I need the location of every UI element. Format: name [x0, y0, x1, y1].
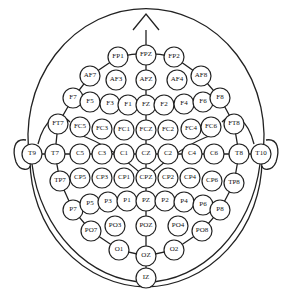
electrode-ft8: FT8 — [224, 114, 244, 134]
electrode-cpz: CPZ — [136, 168, 156, 188]
electrode-fp2: FP2 — [164, 47, 184, 67]
electrode-label: OZ — [141, 251, 150, 259]
electrode-fc6: FC6 — [201, 117, 221, 137]
electrode-label: F7 — [69, 93, 77, 101]
electrode-t9: T9 — [22, 144, 42, 164]
electrode-label: FC4 — [185, 124, 198, 132]
electrode-label: T10 — [255, 149, 267, 157]
electrode-afz: AFZ — [136, 70, 156, 90]
electrode-fcz: FCZ — [136, 120, 156, 140]
electrode-label: P8 — [216, 205, 224, 213]
electrode-fc5: FC5 — [70, 117, 90, 137]
electrode-fc1: FC1 — [114, 120, 134, 140]
electrode-cz: CZ — [136, 144, 156, 164]
electrode-f8: F8 — [210, 88, 230, 108]
electrode-label: PO4 — [172, 221, 185, 229]
electrode-po4: PO4 — [168, 216, 188, 236]
electrode-f1: F1 — [118, 95, 138, 115]
electrode-label: F1 — [124, 100, 132, 108]
electrode-label: T7 — [51, 149, 59, 157]
electrode-label: AFZ — [139, 75, 152, 83]
electrode-c5: C5 — [70, 144, 90, 164]
electrode-label: CZ — [142, 149, 151, 157]
electrode-label: P2 — [161, 196, 169, 204]
electrode-f5: F5 — [80, 92, 100, 112]
electrode-label: FC3 — [96, 124, 109, 132]
electrode-label: F4 — [180, 99, 188, 107]
electrode-af7: AF7 — [80, 66, 100, 86]
electrode-label: FP1 — [112, 52, 124, 60]
electrode-po7: PO7 — [81, 221, 101, 241]
electrode-label: P1 — [123, 196, 131, 204]
electrode-label: CP6 — [206, 176, 219, 184]
electrode-fz: FZ — [136, 95, 156, 115]
electrode-po8: PO8 — [192, 221, 212, 241]
electrode-label: FT7 — [52, 119, 64, 127]
electrode-p8: P8 — [210, 200, 230, 220]
electrode-label: C5 — [76, 149, 85, 157]
electrode-label: FC2 — [162, 125, 175, 133]
electrode-cp6: CP6 — [202, 171, 222, 191]
electrode-label: T9 — [28, 149, 36, 157]
electrode-fp1: FP1 — [108, 47, 128, 67]
electrode-label: AF3 — [110, 75, 123, 83]
electrode-label: TP7 — [54, 176, 66, 184]
electrode-c3: C3 — [92, 144, 112, 164]
electrode-af8: AF8 — [191, 66, 211, 86]
electrode-t7: T7 — [45, 144, 65, 164]
electrode-label: TP8 — [228, 178, 240, 186]
electrode-label: C6 — [210, 149, 219, 157]
electrode-label: CP1 — [118, 173, 131, 181]
electrode-p3: P3 — [98, 192, 118, 212]
electrode-label: CP4 — [184, 173, 197, 181]
electrode-label: CP3 — [96, 173, 109, 181]
electrode-label: PO7 — [85, 226, 98, 234]
electrode-label: PZ — [142, 196, 150, 204]
electrode-o2: O2 — [164, 240, 184, 260]
electrode-label: AF7 — [84, 71, 97, 79]
electrode-label: F8 — [216, 93, 224, 101]
nose-icon — [133, 14, 159, 30]
electrode-label: PO8 — [196, 226, 209, 234]
electrode-label: AF4 — [171, 75, 184, 83]
electrode-cp1: CP1 — [114, 168, 134, 188]
electrode-iz: IZ — [136, 268, 156, 288]
electrode-label: C1 — [120, 149, 129, 157]
electrode-label: FC5 — [74, 122, 87, 130]
electrode-af3: AF3 — [106, 70, 126, 90]
electrode-t10: T10 — [251, 144, 271, 164]
electrode-label: P7 — [69, 205, 77, 213]
electrode-af4: AF4 — [167, 70, 187, 90]
electrode-label: P4 — [180, 197, 188, 205]
electrode-p2: P2 — [155, 191, 175, 211]
electrode-label: F6 — [199, 97, 207, 105]
electrode-label: O1 — [115, 245, 124, 253]
electrode-cp3: CP3 — [92, 168, 112, 188]
electrode-p5: P5 — [80, 194, 100, 214]
electrode-p1: P1 — [117, 191, 137, 211]
electrode-poz: POZ — [136, 216, 156, 236]
electrode-c2: C2 — [158, 144, 178, 164]
electrode-cp4: CP4 — [180, 168, 200, 188]
electrode-label: FCZ — [140, 125, 153, 133]
electrode-label: P5 — [86, 199, 94, 207]
electrode-label: FZ — [142, 100, 150, 108]
electrode-c1: C1 — [114, 144, 134, 164]
electrode-label: FT8 — [228, 119, 240, 127]
electrode-oz: OZ — [136, 246, 156, 266]
electrode-f4: F4 — [174, 94, 194, 114]
electrode-label: F2 — [160, 100, 168, 108]
electrode-fpz: FPZ — [136, 45, 156, 65]
electrode-label: CP5 — [74, 173, 87, 181]
electrode-po3: PO3 — [105, 216, 125, 236]
electrode-label: P6 — [199, 200, 207, 208]
electrode-label: O2 — [170, 245, 179, 253]
electrode-label: CPZ — [140, 173, 153, 181]
electrode-label: FC6 — [205, 122, 218, 130]
electrode-label: IZ — [143, 273, 150, 281]
electrode-label: C3 — [98, 149, 107, 157]
electrode-tp8: TP8 — [224, 173, 244, 193]
electrode-label: CP2 — [162, 173, 175, 181]
electrode-label: C2 — [164, 149, 173, 157]
electrode-f2: F2 — [154, 95, 174, 115]
